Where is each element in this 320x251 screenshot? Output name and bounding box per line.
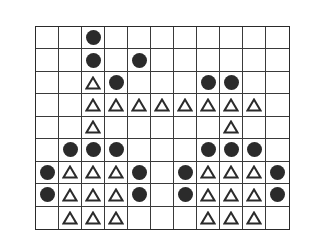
board-cell[interactable] bbox=[174, 207, 197, 229]
board-cell[interactable] bbox=[174, 27, 197, 49]
board-cell[interactable] bbox=[197, 184, 220, 206]
board-cell[interactable] bbox=[82, 72, 105, 94]
board-cell[interactable] bbox=[243, 49, 266, 71]
board-cell[interactable] bbox=[266, 184, 289, 206]
board-cell[interactable] bbox=[59, 27, 82, 49]
board-cell[interactable] bbox=[243, 139, 266, 161]
board-cell[interactable] bbox=[243, 162, 266, 184]
board-cell[interactable] bbox=[128, 94, 151, 116]
board-cell[interactable] bbox=[82, 162, 105, 184]
board-cell[interactable] bbox=[197, 27, 220, 49]
board-cell[interactable] bbox=[36, 162, 59, 184]
board-cell[interactable] bbox=[174, 184, 197, 206]
board-cell[interactable] bbox=[105, 72, 128, 94]
board-cell[interactable] bbox=[174, 139, 197, 161]
board-cell[interactable] bbox=[36, 94, 59, 116]
board-cell[interactable] bbox=[197, 162, 220, 184]
board-cell[interactable] bbox=[151, 72, 174, 94]
board-cell[interactable] bbox=[128, 27, 151, 49]
board-cell[interactable] bbox=[151, 27, 174, 49]
board-cell[interactable] bbox=[59, 117, 82, 139]
board-cell[interactable] bbox=[243, 117, 266, 139]
board-cell[interactable] bbox=[82, 184, 105, 206]
board-cell[interactable] bbox=[220, 117, 243, 139]
board-cell[interactable] bbox=[243, 184, 266, 206]
board-cell[interactable] bbox=[128, 207, 151, 229]
board-cell[interactable] bbox=[197, 72, 220, 94]
board-cell[interactable] bbox=[82, 117, 105, 139]
board-cell[interactable] bbox=[220, 94, 243, 116]
board-cell[interactable] bbox=[220, 207, 243, 229]
board-cell[interactable] bbox=[197, 49, 220, 71]
board-cell[interactable] bbox=[82, 207, 105, 229]
board-cell[interactable] bbox=[174, 72, 197, 94]
board-cell[interactable] bbox=[243, 94, 266, 116]
board-cell[interactable] bbox=[59, 49, 82, 71]
board-cell[interactable] bbox=[151, 207, 174, 229]
board-cell[interactable] bbox=[128, 184, 151, 206]
board-cell[interactable] bbox=[243, 72, 266, 94]
board-cell[interactable] bbox=[59, 162, 82, 184]
board-cell[interactable] bbox=[266, 27, 289, 49]
board-cell[interactable] bbox=[36, 139, 59, 161]
board-cell[interactable] bbox=[243, 207, 266, 229]
board-cell[interactable] bbox=[128, 72, 151, 94]
board-cell[interactable] bbox=[151, 94, 174, 116]
board-cell[interactable] bbox=[174, 49, 197, 71]
board-cell[interactable] bbox=[197, 94, 220, 116]
board-cell[interactable] bbox=[128, 117, 151, 139]
board-cell[interactable] bbox=[59, 139, 82, 161]
board-cell[interactable] bbox=[105, 139, 128, 161]
board-cell[interactable] bbox=[220, 49, 243, 71]
board-cell[interactable] bbox=[82, 27, 105, 49]
board-cell[interactable] bbox=[59, 72, 82, 94]
board-cell[interactable] bbox=[105, 117, 128, 139]
board-cell[interactable] bbox=[105, 162, 128, 184]
board-cell[interactable] bbox=[266, 94, 289, 116]
board-cell[interactable] bbox=[174, 94, 197, 116]
board-cell[interactable] bbox=[151, 184, 174, 206]
board-cell[interactable] bbox=[105, 94, 128, 116]
board-cell[interactable] bbox=[82, 139, 105, 161]
board-cell[interactable] bbox=[105, 27, 128, 49]
board-cell[interactable] bbox=[151, 117, 174, 139]
board-cell[interactable] bbox=[266, 49, 289, 71]
board-cell[interactable] bbox=[36, 207, 59, 229]
board-cell[interactable] bbox=[220, 162, 243, 184]
board-cell[interactable] bbox=[266, 72, 289, 94]
board-cell[interactable] bbox=[220, 27, 243, 49]
board-cell[interactable] bbox=[174, 162, 197, 184]
board-cell[interactable] bbox=[36, 184, 59, 206]
board-cell[interactable] bbox=[36, 49, 59, 71]
board-cell[interactable] bbox=[82, 49, 105, 71]
board-cell[interactable] bbox=[220, 184, 243, 206]
board-cell[interactable] bbox=[128, 49, 151, 71]
board-cell[interactable] bbox=[174, 117, 197, 139]
board-cell[interactable] bbox=[59, 184, 82, 206]
board-cell[interactable] bbox=[197, 207, 220, 229]
board-cell[interactable] bbox=[197, 117, 220, 139]
board-cell[interactable] bbox=[82, 94, 105, 116]
board-cell[interactable] bbox=[266, 117, 289, 139]
board-cell[interactable] bbox=[36, 117, 59, 139]
board-cell[interactable] bbox=[220, 139, 243, 161]
board-cell[interactable] bbox=[151, 49, 174, 71]
board-cell[interactable] bbox=[220, 72, 243, 94]
board-cell[interactable] bbox=[105, 207, 128, 229]
board-cell[interactable] bbox=[151, 139, 174, 161]
board-cell[interactable] bbox=[197, 139, 220, 161]
board-cell[interactable] bbox=[36, 72, 59, 94]
filled-circle-icon bbox=[224, 75, 239, 90]
board-cell[interactable] bbox=[128, 139, 151, 161]
board-cell[interactable] bbox=[243, 27, 266, 49]
board-cell[interactable] bbox=[128, 162, 151, 184]
board-cell[interactable] bbox=[151, 162, 174, 184]
board-cell[interactable] bbox=[105, 184, 128, 206]
board-cell[interactable] bbox=[105, 49, 128, 71]
board-cell[interactable] bbox=[266, 162, 289, 184]
board-cell[interactable] bbox=[266, 207, 289, 229]
board-cell[interactable] bbox=[59, 94, 82, 116]
board-cell[interactable] bbox=[59, 207, 82, 229]
board-cell[interactable] bbox=[266, 139, 289, 161]
board-cell[interactable] bbox=[36, 27, 59, 49]
